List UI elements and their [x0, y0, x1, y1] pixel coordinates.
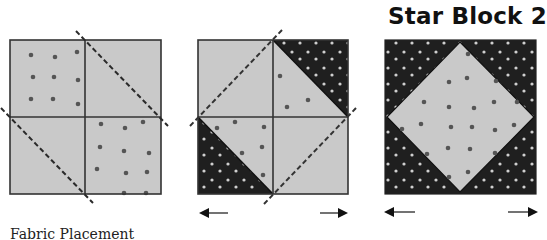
arrow-left-icon	[384, 207, 415, 217]
block-step-2	[190, 30, 356, 218]
block-step-1	[1, 31, 168, 203]
block-step-3	[384, 40, 538, 217]
arrow-right-icon	[508, 207, 538, 217]
caption-text: Fabric Placement	[10, 226, 134, 240]
arrow-left-icon	[199, 208, 228, 218]
arrow-right-icon	[320, 208, 348, 218]
